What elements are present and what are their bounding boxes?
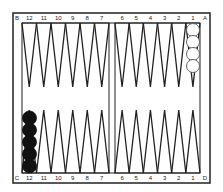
point-label: 10 [55,175,62,181]
black-checker[interactable] [23,111,37,125]
board-frame [13,13,210,183]
backgammon-board: B A C D 121211111010998877665544332211 [0,0,223,192]
point-label: 12 [26,175,33,181]
corner-label-bottom-right: D [203,175,208,181]
corner-label-top-right: A [203,15,207,21]
white-checker[interactable] [187,36,200,49]
point-label: 11 [41,15,48,21]
point-label: 10 [55,15,62,21]
corner-label-bottom-left: C [15,175,20,181]
white-checker[interactable] [187,60,200,73]
point-label: 11 [41,175,48,181]
white-checker[interactable] [187,48,200,61]
corner-label-top-left: B [15,15,19,21]
point-label: 12 [26,15,33,21]
white-checker[interactable] [187,24,200,37]
